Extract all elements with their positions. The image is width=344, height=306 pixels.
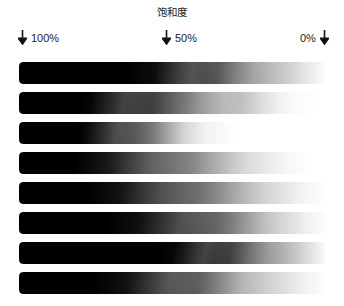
gradient-shadow-overlay — [19, 62, 329, 84]
gradient-bar-row-2 — [19, 92, 329, 114]
gradient-bar-stack — [0, 0, 344, 306]
gradient-shadow-overlay — [19, 182, 329, 204]
gradient-bar-row-6 — [19, 212, 329, 234]
gradient-shadow-overlay — [19, 242, 329, 264]
gradient-bar-row-5 — [19, 182, 329, 204]
gradient-shadow-overlay — [19, 212, 329, 234]
gradient-bar-row-8 — [19, 272, 329, 294]
gradient-bar-row-1 — [19, 62, 329, 84]
gradient-bar-row-3 — [19, 122, 329, 144]
gradient-shadow-overlay — [19, 92, 329, 114]
gradient-shadow-overlay — [19, 152, 329, 174]
gradient-shadow-overlay — [19, 272, 329, 294]
gradient-shadow-overlay — [19, 122, 329, 144]
saturation-chart: 饱和度 100% 50% 0% — [0, 0, 344, 306]
gradient-bar-row-4 — [19, 152, 329, 174]
gradient-bar-row-7 — [19, 242, 329, 264]
